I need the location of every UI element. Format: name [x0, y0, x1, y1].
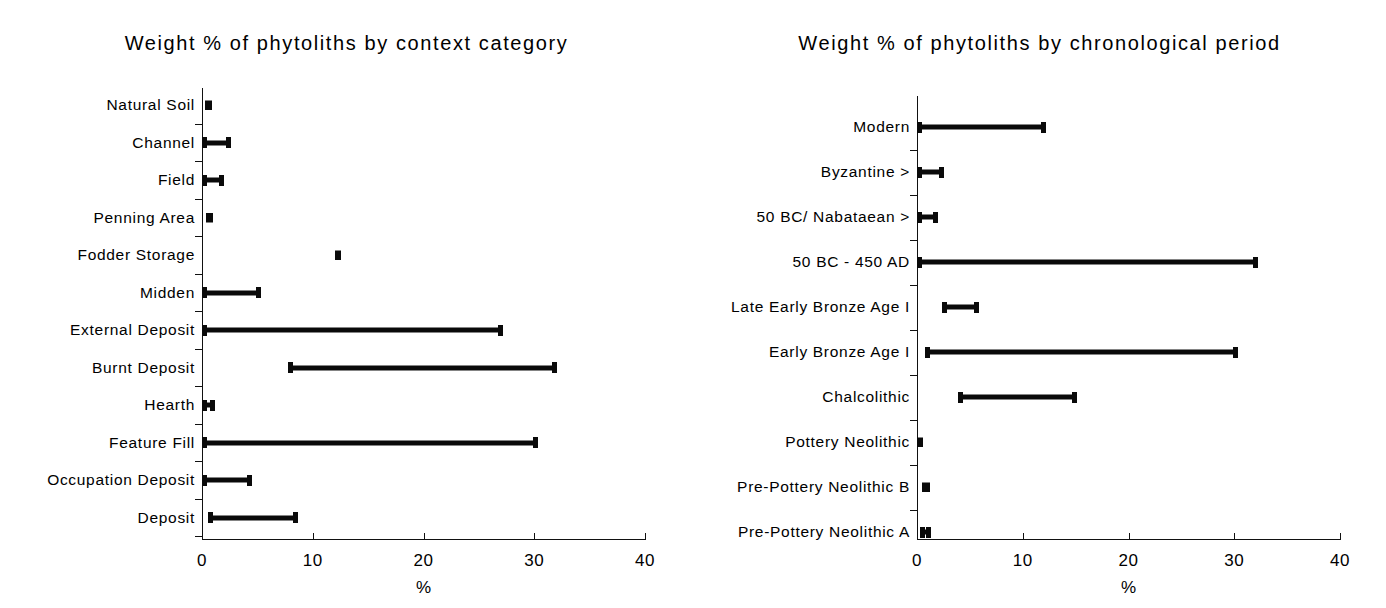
range-bar	[917, 125, 1046, 130]
range-bar	[958, 395, 1076, 400]
x-axis-tick-label: 20	[414, 551, 434, 571]
range-bar	[917, 215, 938, 220]
y-axis-tick	[195, 424, 202, 425]
x-axis-tick	[645, 533, 646, 540]
x-axis-caption: %	[1121, 578, 1136, 598]
range-bar	[202, 178, 224, 183]
range-bar	[920, 530, 931, 535]
chart-title-context-category: Weight % of phytoliths by context catego…	[0, 32, 693, 55]
x-axis-tick-label: 10	[303, 551, 323, 571]
category-label: Occupation Deposit	[47, 471, 195, 489]
category-label: Penning Area	[94, 209, 195, 227]
x-axis-tick-label: 40	[635, 551, 655, 571]
category-label: Pre-Pottery Neolithic A	[738, 523, 910, 541]
range-bar	[288, 365, 557, 370]
x-axis-tick-label: 30	[524, 551, 544, 571]
plot-area-chronological-period: % 010203040ModernByzantine >50 BC/ Nabat…	[917, 96, 1340, 540]
category-label: Deposit	[138, 509, 195, 527]
range-bar	[208, 515, 299, 520]
chart-title-chronological-period: Weight % of phytoliths by chronological …	[693, 32, 1386, 55]
range-bar	[202, 403, 215, 408]
y-axis-tick	[195, 386, 202, 387]
y-axis-line	[202, 88, 203, 540]
category-label: Late Early Bronze Age I	[731, 298, 910, 316]
range-bar	[922, 483, 929, 492]
category-label: 50 BC - 450 AD	[793, 253, 911, 271]
x-axis-tick-label: 20	[1119, 551, 1139, 571]
x-axis-tick	[1340, 533, 1341, 540]
range-bar	[206, 213, 213, 222]
category-label: Byzantine >	[821, 163, 910, 181]
x-axis-caption: %	[416, 578, 431, 598]
category-label: Natural Soil	[106, 96, 195, 114]
chart-panel-chronological-period: Weight % of phytoliths by chronological …	[693, 0, 1386, 608]
x-axis-tick	[917, 533, 918, 540]
range-bar	[925, 350, 1238, 355]
range-bar	[335, 251, 341, 260]
x-axis-tick	[1234, 533, 1235, 540]
x-axis-tick	[424, 533, 425, 540]
y-axis-line	[917, 96, 918, 540]
y-axis-tick	[195, 274, 202, 275]
category-label: 50 BC/ Nabataean >	[757, 208, 911, 226]
range-bar	[202, 290, 261, 295]
y-axis-tick	[195, 124, 202, 125]
y-axis-tick	[195, 499, 202, 500]
category-label: Pre-Pottery Neolithic B	[737, 478, 910, 496]
y-axis-tick	[195, 536, 202, 537]
category-label: Hearth	[144, 396, 195, 414]
range-bar	[202, 328, 503, 333]
x-axis-tick-label: 30	[1224, 551, 1244, 571]
range-bar	[202, 478, 252, 483]
y-axis-tick	[910, 330, 917, 331]
range-bar	[202, 440, 538, 445]
plot-area-context-category: % 010203040Natural SoilChannelFieldPenni…	[202, 88, 645, 540]
x-axis-tick	[313, 533, 314, 540]
x-axis-tick	[534, 533, 535, 540]
y-axis-tick	[195, 461, 202, 462]
y-axis-tick	[910, 465, 917, 466]
x-axis-tick-label: 10	[1013, 551, 1033, 571]
category-label: Midden	[140, 284, 195, 302]
y-axis-tick	[195, 311, 202, 312]
y-axis-tick	[195, 199, 202, 200]
y-axis-tick	[910, 420, 917, 421]
category-label: Early Bronze Age I	[769, 343, 910, 361]
category-label: Pottery Neolithic	[785, 433, 910, 451]
category-label: Channel	[132, 134, 195, 152]
chart-panel-context-category: Weight % of phytoliths by context catego…	[0, 0, 693, 608]
category-label: Field	[158, 171, 195, 189]
y-axis-tick	[195, 236, 202, 237]
range-bar	[205, 101, 212, 110]
category-label: Modern	[853, 118, 910, 136]
y-axis-tick	[910, 150, 917, 151]
x-axis-tick-label: 0	[912, 551, 922, 571]
y-axis-tick	[910, 285, 917, 286]
category-label: External Deposit	[70, 321, 195, 339]
category-label: Fodder Storage	[77, 246, 195, 264]
category-label: Feature Fill	[109, 434, 195, 452]
y-axis-tick	[195, 161, 202, 162]
range-bar	[942, 305, 979, 310]
x-axis-tick-label: 40	[1330, 551, 1350, 571]
y-axis-tick	[910, 240, 917, 241]
phytolith-figure: Weight % of phytoliths by context catego…	[0, 0, 1386, 608]
y-axis-tick	[910, 195, 917, 196]
range-bar	[202, 140, 231, 145]
x-axis-tick	[202, 533, 203, 540]
range-bar	[917, 170, 944, 175]
y-axis-tick	[910, 510, 917, 511]
range-bar	[917, 260, 1258, 265]
y-axis-tick	[910, 375, 917, 376]
x-axis-tick	[1023, 533, 1024, 540]
y-axis-tick	[195, 349, 202, 350]
x-axis-tick-label: 0	[197, 551, 207, 571]
category-label: Chalcolithic	[822, 388, 910, 406]
range-bar	[917, 438, 923, 447]
x-axis-tick	[1129, 533, 1130, 540]
category-label: Burnt Deposit	[92, 359, 195, 377]
